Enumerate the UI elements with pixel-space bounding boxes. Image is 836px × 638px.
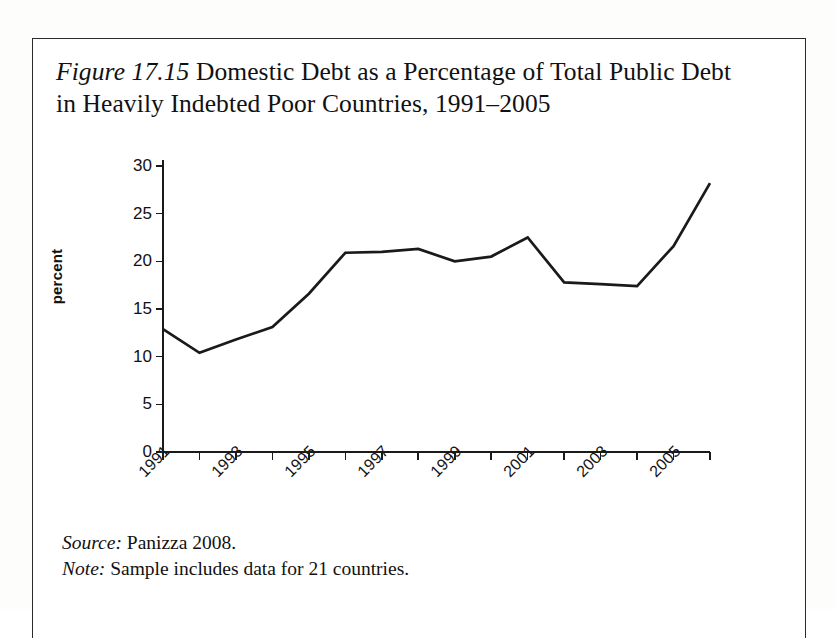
note-line: Note: Sample includes data for 21 countr… bbox=[62, 556, 409, 582]
note-label: Note: bbox=[62, 558, 105, 579]
source-and-note-block: Source: Panizza 2008. Note: Sample inclu… bbox=[62, 530, 409, 582]
source-line: Source: Panizza 2008. bbox=[62, 530, 409, 556]
note-value: Sample includes data for 21 countries. bbox=[105, 558, 409, 579]
data-line-series-0 bbox=[163, 183, 710, 353]
chart-axes bbox=[156, 160, 710, 460]
chart-data-series bbox=[163, 183, 710, 353]
source-label: Source: bbox=[62, 532, 122, 553]
source-value: Panizza 2008. bbox=[122, 532, 236, 553]
